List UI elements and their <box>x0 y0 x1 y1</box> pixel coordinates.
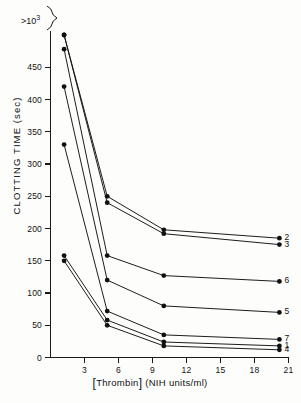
analyte-name: Thrombin <box>96 377 139 388</box>
data-point <box>105 318 110 323</box>
data-point <box>161 333 166 338</box>
x-tick-label: 15 <box>209 365 233 375</box>
y-tick-label: 150 <box>0 256 42 266</box>
y-tick-label: 400 <box>0 95 42 105</box>
data-point <box>277 279 282 284</box>
data-point <box>62 47 67 52</box>
bracket-close: ] <box>139 376 143 390</box>
axis-lines <box>51 31 289 358</box>
y-axis-ticks <box>45 67 51 357</box>
data-point <box>277 347 282 352</box>
data-point <box>62 33 67 38</box>
y-tick-label: 350 <box>0 127 42 137</box>
y-tick-label: 200 <box>0 224 42 234</box>
data-point <box>277 236 282 241</box>
data-point <box>105 323 110 328</box>
y-axis-title: CLOTTING TIME (sec) <box>11 86 22 226</box>
series-label-4: 4 <box>284 344 289 354</box>
data-point <box>62 142 67 147</box>
chart-canvas <box>0 0 300 403</box>
top-label-value: >10 <box>21 16 36 26</box>
x-tick-label: 9 <box>141 365 165 375</box>
series-label-6: 6 <box>284 275 289 285</box>
y-tick-label: 450 <box>0 62 42 72</box>
series-6 <box>62 47 282 284</box>
y-tick-label: 50 <box>0 320 42 330</box>
data-point <box>161 304 166 309</box>
x-tick-label: 18 <box>243 365 267 375</box>
x-tick-label: 6 <box>107 365 131 375</box>
data-point <box>105 278 110 283</box>
figure-panel: CLOTTING TIME (sec) [Thrombin] (NIH unit… <box>0 0 300 403</box>
series-label-3: 3 <box>284 239 289 249</box>
series-label-5: 5 <box>284 306 289 316</box>
x-axis-title: [Thrombin] (NIH units/ml) <box>0 376 300 390</box>
data-point <box>105 200 110 205</box>
data-point <box>277 242 282 247</box>
x-axis-units: (NIH units/ml) <box>145 377 207 388</box>
x-tick-label: 12 <box>175 365 199 375</box>
top-label-exponent: 3 <box>36 14 40 21</box>
series-3 <box>62 33 282 247</box>
y-tick-label: 300 <box>0 159 42 169</box>
data-point <box>277 337 282 342</box>
data-point <box>161 231 166 236</box>
data-point <box>62 84 67 89</box>
data-point <box>105 253 110 258</box>
y-tick-label: 250 <box>0 191 42 201</box>
data-point <box>62 253 67 258</box>
y-tick-label: 0 <box>0 353 42 363</box>
data-point <box>161 344 166 349</box>
data-point <box>105 309 110 314</box>
data-series-group <box>62 33 282 353</box>
x-tick-label: 3 <box>73 365 97 375</box>
x-axis-ticks <box>85 358 289 364</box>
y-tick-label: 100 <box>0 288 42 298</box>
series-2 <box>62 33 282 241</box>
data-point <box>161 273 166 278</box>
data-point <box>62 258 67 263</box>
axis-break-mark <box>47 6 57 30</box>
series-1 <box>62 253 282 348</box>
data-point <box>277 310 282 315</box>
y-axis-top-label: >103 <box>21 14 40 26</box>
x-tick-label: 21 <box>277 365 301 375</box>
